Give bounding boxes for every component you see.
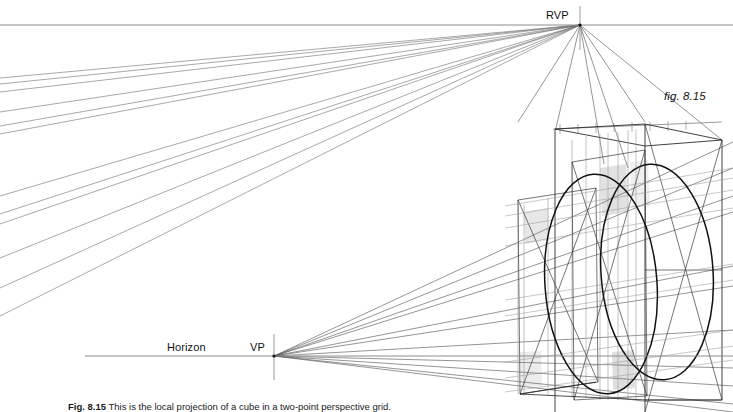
- vp-ray-fan: [274, 142, 733, 412]
- box-top-face: [555, 124, 722, 146]
- figure-caption: Fig. 8.15 This is the local projection o…: [68, 401, 391, 412]
- rvp-ray: [0, 25, 580, 224]
- vp-point: [272, 354, 275, 357]
- rvp-ray: [0, 25, 580, 92]
- rvp-ray: [0, 25, 580, 288]
- figure-number-label: fig. 8.15: [664, 90, 706, 102]
- rvp-ray-construction: [580, 25, 628, 168]
- vp-label: VP: [250, 341, 265, 353]
- perspective-construction-drawing: [0, 0, 733, 412]
- figure-caption-number: Fig. 8.15: [68, 401, 106, 412]
- rvp-ray-construction: [580, 25, 604, 164]
- rvp-ray-construction: [580, 25, 645, 122]
- rvp-ray: [0, 25, 580, 258]
- rvp-label: RVP: [546, 9, 569, 21]
- figure-caption-text: This is the local projection of a cube i…: [108, 401, 391, 412]
- vp-ray: [274, 330, 733, 356]
- rvp-ray: [0, 25, 580, 134]
- figure-page: RVP VP Horizon fig. 8.15 Fig. 8.15 This …: [0, 0, 733, 412]
- rvp-ray: [0, 25, 580, 126]
- rvp-ray: [0, 25, 580, 84]
- shade-left-upper: [524, 208, 549, 244]
- horizon-label: Horizon: [167, 341, 206, 353]
- right-face-panel: [645, 124, 722, 412]
- horizontal-construction-line: [505, 280, 733, 316]
- rvp-ray: [0, 25, 580, 214]
- horizontal-construction-line: [505, 264, 733, 300]
- vp-ray: [274, 356, 733, 368]
- vp-ray: [274, 196, 733, 356]
- vp-ray: [274, 266, 733, 356]
- vp-ray: [274, 212, 733, 356]
- vp-ray: [274, 356, 733, 386]
- rvp-ray-construction: [518, 25, 580, 122]
- vp-ray: [274, 142, 733, 356]
- rvp-ray-construction: [556, 25, 580, 128]
- rvp-ray: [0, 25, 580, 78]
- rvp-ray-fan: [0, 25, 580, 316]
- rvp-point: [578, 23, 581, 26]
- vp-ray: [274, 168, 733, 356]
